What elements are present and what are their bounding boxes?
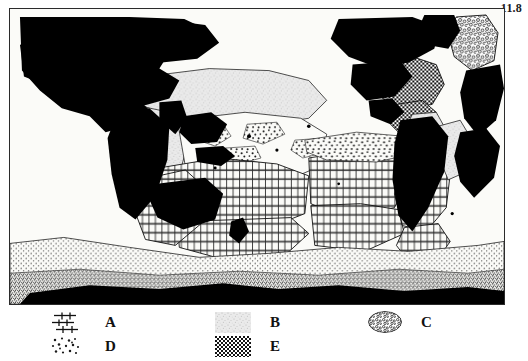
legend-swatch-d [50, 336, 86, 357]
legend-entry-b: B [215, 310, 280, 334]
legend: A B [0, 306, 528, 361]
legend-swatch-b [215, 312, 251, 333]
legend-entry-e: E [215, 334, 280, 358]
legend-entry-a: A [50, 310, 116, 334]
legend-label-e: E [270, 339, 280, 354]
legend-entry-c: C [368, 310, 432, 334]
legend-label-b: B [270, 315, 280, 330]
legend-row: A B [0, 310, 528, 334]
legend-entry-d: D [50, 334, 116, 358]
legend-label-c: C [421, 315, 432, 330]
map-frame [9, 8, 505, 305]
legend-label-a: A [105, 315, 116, 330]
legend-swatch-a [50, 312, 86, 333]
legend-swatch-c [368, 311, 402, 333]
legend-label-d: D [105, 339, 116, 354]
world-map [10, 9, 504, 304]
legend-row: D E [0, 334, 528, 358]
legend-swatch-e [215, 336, 251, 357]
